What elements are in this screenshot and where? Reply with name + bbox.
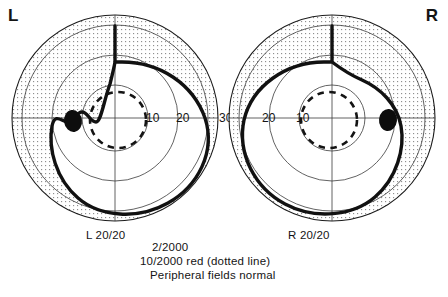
caption-line-peripheral-fields: Peripheral fields normal — [150, 268, 276, 282]
right-eye-label: R — [426, 7, 438, 24]
left-tick-10: 10 — [146, 111, 160, 125]
figure-caption: 2/2000 10/2000 red (dotted line) Periphe… — [152, 240, 276, 282]
left-eye-field-plot: 10 20 30 — [12, 15, 233, 221]
caption-line-stimulus-red: 10/2000 red (dotted line) — [140, 254, 276, 268]
caption-line-stimulus-white: 2/2000 — [152, 240, 276, 254]
left-eye-label: L — [8, 7, 18, 24]
right-eye-field-plot: 20 10 — [229, 15, 435, 221]
right-tick-10: 10 — [296, 111, 310, 125]
left-acuity-label: L 20/20 — [86, 229, 125, 241]
right-acuity-label: R 20/20 — [288, 229, 330, 241]
visual-field-figure: 10 20 30 20 10 L R L 20/20 R 20/20 — [0, 0, 448, 297]
right-tick-20: 20 — [262, 111, 276, 125]
left-tick-20: 20 — [176, 111, 190, 125]
